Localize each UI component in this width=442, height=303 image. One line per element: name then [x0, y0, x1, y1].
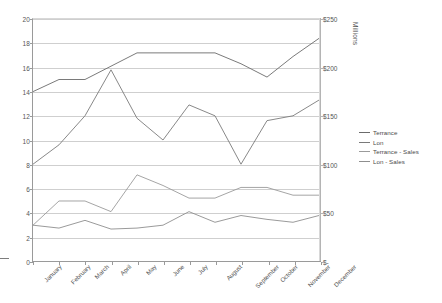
y-axis-left-tick-label: 18	[23, 40, 30, 47]
series-line	[33, 70, 319, 164]
legend-item-label: Lon - Sales	[373, 158, 405, 165]
x-axis-label: May	[144, 263, 157, 276]
x-axis-label: July	[196, 263, 209, 276]
y-axis-right-tick-label: $50	[323, 210, 334, 217]
legend-item-label: Terrance - Sales	[373, 148, 419, 155]
plot-area: 02468101214161820 $-$50$100$150$200$250	[32, 18, 320, 261]
y-axis-right-tick-label: $100	[323, 161, 337, 168]
legend-item[interactable]: Lon	[359, 139, 419, 146]
legend-color-swatch	[359, 142, 370, 143]
y-axis-left-tick-label: 12	[23, 113, 30, 120]
y-axis-right-line	[320, 18, 321, 261]
y-axis-left-tick-label: 16	[23, 64, 30, 71]
cropped-legend-fragment	[0, 258, 9, 259]
x-axis-label: November	[306, 263, 331, 288]
x-axis-label: January	[42, 263, 63, 284]
x-axis-label: August	[225, 263, 244, 282]
x-axis-line	[32, 261, 321, 262]
legend-color-swatch	[359, 161, 370, 162]
legend-item-label: Lon	[373, 139, 383, 146]
chart-legend: TerranceLonTerrance - SalesLon - Sales	[359, 129, 419, 165]
series-line	[33, 175, 319, 225]
y-axis-right-tick-mark	[321, 116, 324, 117]
y-axis-right-tick-mark	[321, 213, 324, 214]
series-line	[33, 212, 319, 229]
x-axis-label: April	[118, 263, 132, 277]
y-axis-right-title: Millions	[352, 22, 359, 45]
y-axis-right-tick-label: $250	[323, 16, 337, 23]
x-axis-label: February	[69, 263, 91, 285]
legend-item-label: Terrance	[373, 129, 397, 136]
series-lines	[33, 19, 319, 261]
legend-color-swatch	[359, 132, 370, 133]
legend-item[interactable]: Terrance - Sales	[359, 148, 419, 155]
legend-color-swatch	[359, 151, 370, 152]
x-axis-label: October	[278, 263, 299, 284]
x-axis-label: September	[254, 263, 280, 289]
y-axis-right-tick-mark	[321, 68, 324, 69]
y-axis-right-tick-label: $150	[323, 113, 337, 120]
x-axis-label: March	[93, 263, 110, 280]
y-axis-left-tick-label: 10	[23, 137, 30, 144]
legend-item[interactable]: Lon - Sales	[359, 158, 419, 165]
y-axis-left-tick-label: 14	[23, 88, 30, 95]
x-axis-label: June	[171, 263, 185, 277]
x-axis-labels: JanuaryFebruaryMarchAprilMayJuneJulyAugu…	[32, 263, 320, 303]
legend-item[interactable]: Terrance	[359, 129, 419, 136]
x-axis-tick-mark	[321, 262, 322, 265]
line-chart: 02468101214161820 $-$50$100$150$200$250 …	[0, 0, 442, 303]
y-axis-left-tick-label: 20	[23, 16, 30, 23]
x-axis-label: December	[332, 263, 357, 288]
y-axis-right-tick-mark	[321, 19, 324, 20]
series-line	[33, 38, 319, 91]
y-axis-right-tick-mark	[321, 165, 324, 166]
y-axis-right-tick-label: $200	[323, 64, 337, 71]
